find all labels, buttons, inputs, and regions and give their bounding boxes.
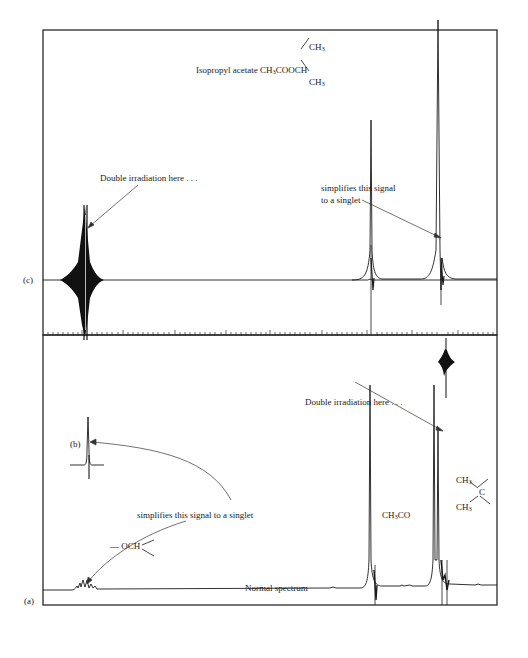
group-label-c-bottom: CH3 [456,503,472,513]
branch-sub: 3 [322,80,325,87]
branch-text: CH [309,77,322,87]
irradiation-burst-c [60,205,104,340]
panel-label-c: (c) [23,276,33,285]
annotation-arrows-a [87,382,443,584]
group-text: CH [382,510,395,520]
nmr-figure: Isopropyl acetate CH3COOCH CH3 CH3 (c) D… [0,0,528,658]
annotation-simplifies-a: simplifies this signal to a singlet [137,511,253,520]
group-text: CO [398,510,411,520]
lower-frame [43,335,497,605]
formula-part: CH [260,65,273,75]
group-text: CH [456,502,469,512]
spectra-plot [0,0,528,658]
annotation-simplifies-c-line1: simplifies this signal [321,184,396,193]
panel-label-a: (a) [24,597,34,606]
panel-label-b: (b) [70,440,81,449]
group-text: CH [456,475,469,485]
compound-label: Isopropyl acetate CH3COOCH [196,66,307,76]
branch-text: CH [309,42,322,52]
caption-normal-spectrum: Normal spectrum [245,584,308,593]
annotation-simplifies-c-line2: to a singlet [321,196,361,205]
compound-branch-top: CH3 [309,43,325,53]
compound-name: Isopropyl acetate [196,65,258,75]
group-label-c-top: CH3 [456,476,472,486]
annotation-double-irradiation-a: Double irradiation here . . . [305,398,402,407]
formula-part: COOCH [276,65,308,75]
annotation-double-irradiation-c: Double irradiation here . . . [100,174,197,183]
group-label-och: — OCH [110,542,140,551]
spectrum-a [43,385,497,605]
group-label-c-center: C [479,488,485,497]
group-label-ch3co: CH3CO [382,511,410,521]
group-sub: 3 [469,505,472,512]
irradiation-burst-a [438,338,455,398]
branch-sub: 3 [322,45,325,52]
compound-branch-bottom: CH3 [309,78,325,88]
axis-ticks [48,330,493,335]
group-sub: 3 [469,478,472,485]
